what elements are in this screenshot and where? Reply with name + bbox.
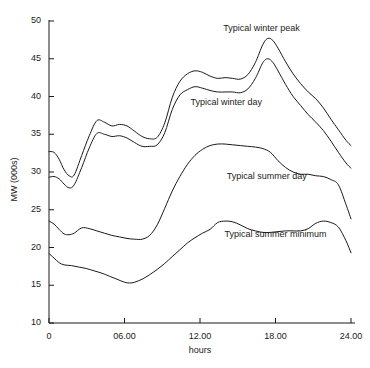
x-axis-ticks	[49, 318, 351, 323]
x-axis-tick-label: 12.00	[177, 332, 223, 341]
x-axis-tick-label: 18.00	[253, 332, 299, 341]
y-axis-tick-label: 25	[17, 205, 41, 214]
y-axis-tick-label: 20	[17, 243, 41, 252]
x-axis-title: hours	[150, 346, 250, 355]
series-line	[49, 38, 351, 177]
power-demand-chart: 101520253035404550 006.0012.0018.0024.00…	[0, 0, 370, 368]
y-axis-tick-label: 50	[17, 16, 41, 25]
series-line	[49, 144, 351, 240]
y-axis-tick-label: 30	[17, 167, 41, 176]
y-axis-tick-label: 35	[17, 129, 41, 138]
series-annotation: Typical summer day	[227, 172, 307, 181]
y-axis-tick-label: 45	[17, 54, 41, 63]
x-axis-tick-label: 24.00	[328, 332, 370, 341]
y-axis-tick-label: 40	[17, 92, 41, 101]
series-line	[49, 59, 351, 188]
series-annotation: Typical winter day	[190, 98, 262, 107]
x-axis-tick-label: 06.00	[102, 332, 148, 341]
chart-plot-area	[0, 0, 370, 368]
y-axis-tick-label: 10	[17, 318, 41, 327]
chart-axes	[49, 20, 355, 323]
y-axis-tick-label: 15	[17, 280, 41, 289]
series-annotation: Typical summer minimum	[225, 230, 327, 239]
x-axis-tick-label: 0	[26, 332, 72, 341]
y-axis-title: MW (000s)	[10, 145, 19, 215]
chart-series-lines	[49, 38, 351, 283]
y-axis-ticks	[49, 21, 54, 323]
series-annotation: Typical winter peak	[223, 24, 300, 33]
